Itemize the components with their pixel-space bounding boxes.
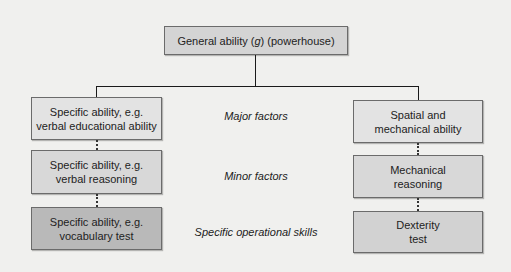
connector-left-dotted-1 <box>96 140 98 150</box>
right-node-major-line2: mechanical ability <box>375 122 462 136</box>
root-label-post: ) (powerhouse) <box>261 35 335 47</box>
left-node-specific: Specific ability, e.g. vocabulary test <box>31 207 162 250</box>
connector-left-drop <box>96 86 97 97</box>
left-node-minor-line1: Specific ability, e.g. <box>50 158 143 172</box>
right-node-minor: Mechanical reasoning <box>353 155 483 198</box>
root-label-pre: General ability ( <box>177 35 254 47</box>
left-node-specific-line2: vocabulary test <box>50 229 143 243</box>
level-label-minor: Minor factors <box>224 170 288 182</box>
root-node-label: General ability (g) (powerhouse) <box>177 34 334 48</box>
left-node-minor: Specific ability, e.g. verbal reasoning <box>31 150 162 194</box>
connector-right-drop <box>418 86 419 100</box>
connector-root-vertical <box>255 55 256 87</box>
level-label-specific: Specific operational skills <box>195 226 318 238</box>
connector-right-dotted-2 <box>417 198 419 211</box>
right-node-major-line1: Spatial and <box>375 108 462 122</box>
left-node-specific-line1: Specific ability, e.g. <box>50 215 143 229</box>
right-node-minor-line1: Mechanical <box>390 163 446 177</box>
connector-horizontal <box>96 86 419 87</box>
left-node-major: Specific ability, e.g. verbal educationa… <box>31 97 162 140</box>
right-node-minor-line2: reasoning <box>390 177 446 191</box>
left-node-major-line1: Specific ability, e.g. <box>36 105 156 119</box>
connector-left-dotted-2 <box>96 194 98 207</box>
right-node-specific: Dexterity test <box>353 211 483 253</box>
right-node-specific-line1: Dexterity <box>396 218 439 232</box>
left-node-minor-line2: verbal reasoning <box>50 172 143 186</box>
root-node-general-ability: General ability (g) (powerhouse) <box>164 26 348 55</box>
connector-right-dotted-1 <box>417 143 419 155</box>
right-node-specific-line2: test <box>396 232 439 246</box>
left-node-major-line2: verbal educational ability <box>36 119 156 133</box>
right-node-major: Spatial and mechanical ability <box>353 100 483 143</box>
level-label-major: Major factors <box>224 110 288 122</box>
